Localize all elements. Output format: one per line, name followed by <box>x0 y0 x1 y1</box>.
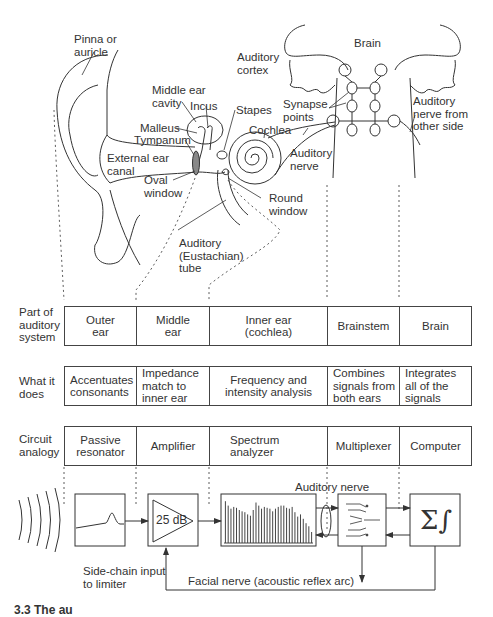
auditory-nerve-label: Auditory nerve <box>295 481 369 494</box>
amplifier-gain: 25 dB <box>156 514 187 527</box>
resonator-box <box>75 494 125 546</box>
sound-waves-icon <box>19 488 60 552</box>
side-chain-label: Side-chain input to limiter <box>83 565 165 590</box>
multiplexer-switch-icon <box>346 504 380 536</box>
resonance-curve <box>76 513 124 528</box>
spectrum-bars <box>224 501 313 543</box>
facial-nerve-label: Facial nerve (acoustic reflex arc) <box>188 575 354 588</box>
spectrum-analyzer-box <box>221 494 316 546</box>
computer-symbol: Σ∫ <box>420 505 452 535</box>
caption-partial: 3.3 The au <box>14 604 73 617</box>
circuit-connectors <box>64 467 399 530</box>
nerve-bundle-icon <box>321 505 331 537</box>
